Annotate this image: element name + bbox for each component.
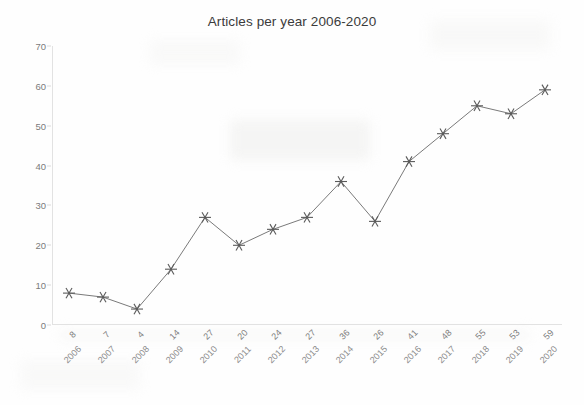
data-point-marker (131, 304, 143, 314)
data-point-marker (63, 288, 75, 298)
data-point-marker (97, 292, 109, 302)
x-axis-value-label: 24 (269, 327, 283, 341)
y-tick-label: 40 (35, 160, 46, 171)
data-point-marker (539, 85, 551, 95)
x-axis-year-label: 2014 (334, 344, 355, 365)
y-tick-mark (47, 125, 51, 126)
scan-artifact (60, 330, 530, 340)
x-axis-year-label: 2018 (470, 344, 491, 365)
x-axis-year-label: 2007 (96, 344, 117, 365)
y-tick-mark (47, 85, 51, 86)
y-tick-mark (47, 325, 51, 326)
x-axis-year-label: 2009 (164, 344, 185, 365)
x-axis-value-label: 53 (507, 327, 521, 341)
y-tick-label: 60 (35, 80, 46, 91)
x-axis-value-label: 36 (337, 327, 351, 341)
x-axis-value-label: 14 (167, 327, 181, 341)
y-tick-mark (47, 205, 51, 206)
y-tick-mark (47, 285, 51, 286)
y-tick-label: 50 (35, 120, 46, 131)
x-axis-year-label: 2016 (402, 344, 423, 365)
x-axis-value-label: 27 (201, 327, 215, 341)
x-axis-year-label: 2011 (232, 344, 253, 365)
x-axis-value-label: 7 (101, 329, 112, 340)
series-polyline (69, 90, 545, 309)
x-axis-year-label: 2017 (436, 344, 457, 365)
y-tick-label: 70 (35, 41, 46, 52)
data-point-marker (301, 212, 313, 222)
y-tick-mark (47, 245, 51, 246)
x-axis-value-label: 20 (235, 327, 249, 341)
x-axis-year-label: 2013 (300, 344, 321, 365)
data-point-marker (267, 224, 279, 234)
x-axis-value-label: 48 (439, 327, 453, 341)
data-point-marker (505, 109, 517, 119)
chart-figure: Articles per year 2006-2020 010203040506… (0, 0, 584, 405)
data-point-marker (369, 216, 381, 226)
data-point-marker (335, 176, 347, 186)
y-tick-mark (47, 46, 51, 47)
x-axis-year-label: 2010 (198, 344, 219, 365)
x-axis-year-label: 2015 (368, 344, 389, 365)
plot-area: 010203040506070 820067200742008142009272… (52, 46, 562, 325)
x-axis-value-label: 8 (67, 329, 78, 340)
x-axis-value-label: 55 (473, 327, 487, 341)
series-markers (63, 85, 551, 315)
scan-artifact (20, 360, 140, 390)
x-axis-value-label: 59 (541, 327, 555, 341)
y-tick-label: 30 (35, 200, 46, 211)
data-point-marker (165, 264, 177, 274)
x-axis-year-label: 2008 (130, 344, 151, 365)
x-axis-year-label: 2006 (62, 344, 83, 365)
x-axis-year-label: 2019 (504, 344, 525, 365)
y-tick-label: 20 (35, 240, 46, 251)
x-axis-value-label: 26 (371, 327, 385, 341)
chart-title: Articles per year 2006-2020 (0, 14, 584, 29)
x-axis-value-label: 27 (303, 327, 317, 341)
x-axis-year-label: 2012 (266, 344, 287, 365)
x-axis-value-label: 41 (405, 327, 419, 341)
y-tick-label: 0 (41, 320, 46, 331)
y-tick-mark (47, 165, 51, 166)
x-axis-year-label: 2020 (538, 344, 559, 365)
y-tick-label: 10 (35, 280, 46, 291)
line-series (52, 46, 562, 325)
x-axis-value-label: 4 (135, 329, 146, 340)
